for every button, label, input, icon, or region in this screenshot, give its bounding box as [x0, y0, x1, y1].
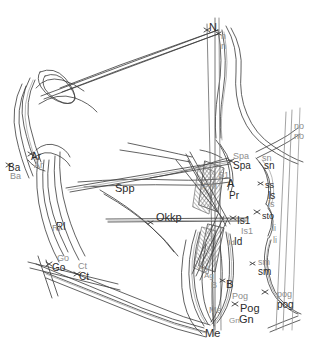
- landmark-label-Is1b: Is1: [241, 227, 253, 236]
- landmark-label-Pr: Pr: [229, 191, 239, 201]
- landmark-label-A: A: [227, 178, 234, 189]
- landmark-label-Me2: Me: [205, 328, 220, 339]
- landmark-label-Go2: Go: [52, 263, 65, 273]
- landmark-label-Idb: Id: [228, 239, 235, 247]
- landmark-label-Ct1: Ct: [78, 262, 87, 271]
- landmark-label-Ida: Id: [234, 237, 242, 247]
- landmark-label-B1: B: [211, 281, 217, 290]
- landmark-label-pog1: pog: [277, 290, 292, 299]
- landmark-label-pog2: pog: [277, 300, 294, 310]
- landmark-label-Pog1: Pog: [232, 292, 248, 301]
- landmark-label-no1: no: [294, 122, 304, 131]
- landmark-label-Is1a: Is1: [237, 216, 250, 226]
- landmark-label-sn2: sn: [264, 161, 275, 171]
- tracing-drawing: [0, 0, 321, 346]
- landmark-label-li2: li: [273, 236, 277, 245]
- landmark-label-Prn: Prn: [203, 182, 217, 191]
- landmark-label-n1: n: [221, 32, 226, 41]
- landmark-label-ss: ss: [265, 181, 274, 190]
- landmark-label-ls2: ls: [268, 200, 275, 209]
- landmark-label-B2: B: [226, 279, 233, 290]
- cephalometric-tracing-figure: NnnnonoArArBaBaSpaSpasnsnS1ASppPrnPrssls…: [0, 0, 321, 346]
- landmark-label-Spp: Spp: [115, 183, 135, 194]
- landmark-label-Spa2: Spa: [233, 161, 251, 171]
- landmark-label-Ct2: Ct: [79, 272, 89, 282]
- landmark-label-sto: sto: [262, 212, 274, 221]
- landmark-label-no2: no: [294, 132, 304, 141]
- landmark-label-Ba2: Ba: [10, 172, 21, 181]
- landmark-label-N: N: [209, 22, 217, 33]
- landmark-label-n2: n: [221, 42, 226, 51]
- landmark-label-li1: li: [272, 224, 276, 233]
- landmark-label-Gna: Gn: [229, 317, 240, 325]
- landmark-label-Me1: Me: [209, 306, 222, 315]
- landmark-label-Aga: Ag: [204, 272, 214, 280]
- landmark-label-Ar2: Ar: [34, 161, 43, 170]
- landmark-label-Gn: Gn: [239, 314, 254, 325]
- landmark-label-Rl2: Rl: [52, 224, 61, 233]
- landmark-label-Okkp: Okkp: [156, 212, 182, 223]
- landmark-label-sm2: sm: [258, 267, 271, 277]
